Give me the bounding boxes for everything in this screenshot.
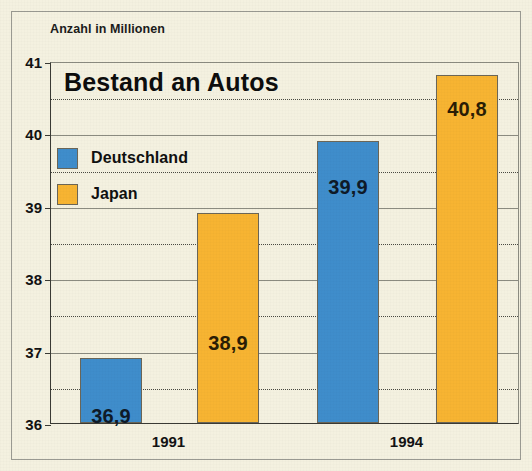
y-axis-tick-label: 38 [2, 271, 42, 288]
x-axis-tick-label: 1994 [390, 433, 423, 450]
y-tick-mark-37 [45, 353, 51, 354]
y-axis-tick-label: 36 [2, 416, 42, 433]
y-tick-mark-39 [45, 208, 51, 209]
y-tick-mark-36 [45, 425, 51, 426]
y-tick-mark-38 [45, 280, 51, 281]
bar-value-label: 36,9 [91, 405, 131, 428]
bar-value-label: 38,9 [208, 332, 248, 355]
legend-item-japan[interactable]: Japan [57, 176, 188, 212]
x-axis-tick-label: 1991 [152, 433, 185, 450]
y-axis-tick-label: 39 [2, 198, 42, 215]
chart-title: Bestand an Autos [64, 68, 279, 97]
y-axis-tick-label: 40 [2, 126, 42, 143]
bar-1991-deutschland[interactable]: 36,9 [80, 358, 142, 423]
legend-swatch-orange-icon [57, 184, 78, 205]
legend-label-deutschland: Deutschland [91, 149, 188, 167]
y-axis-tick-label: 37 [2, 343, 42, 360]
bar-value-label: 40,8 [447, 98, 487, 121]
bar-value-label: 39,9 [328, 176, 368, 199]
legend-item-deutschland[interactable]: Deutschland [57, 140, 188, 176]
axis-unit-caption: Anzahl in Millionen [50, 22, 165, 36]
legend-swatch-blue-icon [57, 148, 78, 169]
chart-screenshot: Anzahl in Millionen 36,938,939,940,8 Bes… [0, 0, 532, 471]
y-tick-mark-41 [45, 63, 51, 64]
y-axis-tick-label: 41 [2, 54, 42, 71]
chart-legend: Deutschland Japan [57, 140, 188, 212]
y-tick-mark-40 [45, 135, 51, 136]
bar-1994-japan[interactable]: 40,8 [436, 75, 498, 423]
bar-1994-deutschland[interactable]: 39,9 [317, 141, 379, 423]
plot-area: 36,938,939,940,8 [50, 62, 519, 424]
legend-label-japan: Japan [91, 185, 138, 203]
bar-1991-japan[interactable]: 38,9 [197, 213, 259, 423]
